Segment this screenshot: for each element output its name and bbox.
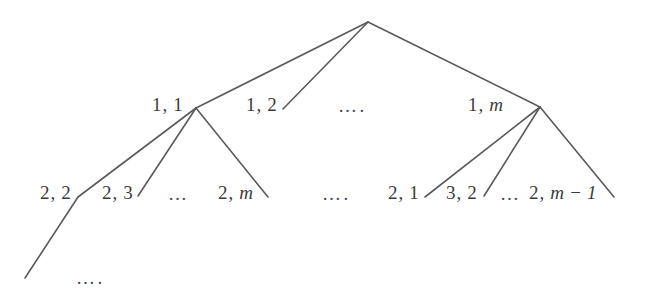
ellipsis-bottom-left: ….: [76, 268, 105, 287]
ellipsis-level2-mid: ….: [322, 184, 351, 203]
edge-root-to-1-m: [368, 22, 540, 107]
node-label-1-m: 1, m: [468, 95, 503, 114]
edge-1-m-to-2-1: [425, 107, 540, 197]
tree-edges-svg: [0, 0, 650, 293]
edge-2-2-continuation: [25, 197, 78, 278]
node-label-2-m-1: 2, m − 1: [529, 183, 597, 202]
node-label-2-m: 2, m: [218, 183, 253, 202]
ellipsis-level1-mid: ….: [338, 96, 367, 115]
node-label-2-3: 2, 3: [102, 183, 133, 202]
ellipsis-level2-right-inner: …: [500, 184, 522, 203]
node-label-3-2: 3, 2: [446, 183, 477, 202]
node-label-2-1: 2, 1: [388, 183, 419, 202]
node-label-1-1: 1, 1: [152, 95, 183, 114]
node-label-2-2: 2, 2: [40, 183, 71, 202]
node-label-1-2: 1, 2: [246, 95, 277, 114]
ellipsis-level2-left-inner: …: [168, 184, 190, 203]
tree-diagram-figure: 1, 1 1, 2 …. 1, m 2, 2 2, 3 … 2, m …. 2,…: [0, 0, 650, 293]
